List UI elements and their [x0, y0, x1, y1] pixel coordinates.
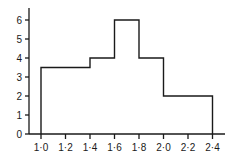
histogram-step-line — [41, 20, 213, 134]
x-tick-label: 2·4 — [205, 142, 220, 153]
y-tick-label: 4 — [16, 53, 22, 64]
y-tick-label: 6 — [16, 15, 22, 26]
y-axis: 0123456 — [16, 8, 29, 140]
histogram-chart: 0123456 1·01·21·41·61·82·02·22·4 — [0, 0, 236, 167]
x-tick-label: 1·2 — [58, 142, 73, 153]
y-tick-label: 2 — [16, 91, 22, 102]
y-tick-label: 1 — [16, 110, 22, 121]
x-tick-label: 1·0 — [34, 142, 49, 153]
x-axis: 1·01·21·41·61·82·02·22·4 — [29, 134, 225, 153]
x-tick-label: 1·8 — [132, 142, 147, 153]
y-tick-label: 3 — [16, 72, 22, 83]
x-tick-label: 1·6 — [107, 142, 122, 153]
y-tick-label: 0 — [16, 129, 22, 140]
y-tick-label: 5 — [16, 34, 22, 45]
x-tick-label: 1·4 — [83, 142, 98, 153]
histogram-outline — [41, 20, 213, 134]
x-tick-label: 2·2 — [181, 142, 196, 153]
x-tick-label: 2·0 — [156, 142, 171, 153]
